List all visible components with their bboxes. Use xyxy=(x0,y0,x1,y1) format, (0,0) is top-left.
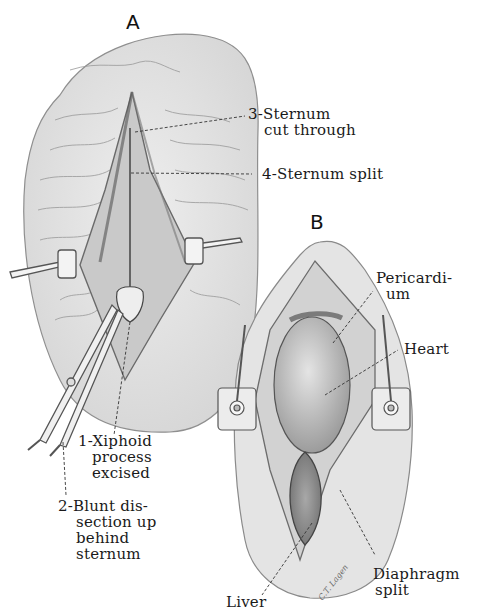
label-diaphragm-split: Diaphragm split xyxy=(373,566,460,598)
label-sternum-split: 4-Sternum split xyxy=(262,166,383,182)
label-pericardium: Pericardi- um xyxy=(376,270,452,302)
label-xiphoid-process-excised: 1-Xiphoid process excised xyxy=(78,433,152,481)
label-liver: Liver xyxy=(226,594,266,610)
label-sternum-cut-through: 3-Sternum cut through xyxy=(248,106,356,138)
panel-a-letter: A xyxy=(126,12,140,32)
surgical-illustration: A B 3-Sternum cut through 4-Sternum spli… xyxy=(0,0,497,616)
panel-b-letter: B xyxy=(310,212,324,232)
label-blunt-dissection: 2-Blunt dis- section up behind sternum xyxy=(58,498,157,562)
label-heart: Heart xyxy=(404,341,449,357)
